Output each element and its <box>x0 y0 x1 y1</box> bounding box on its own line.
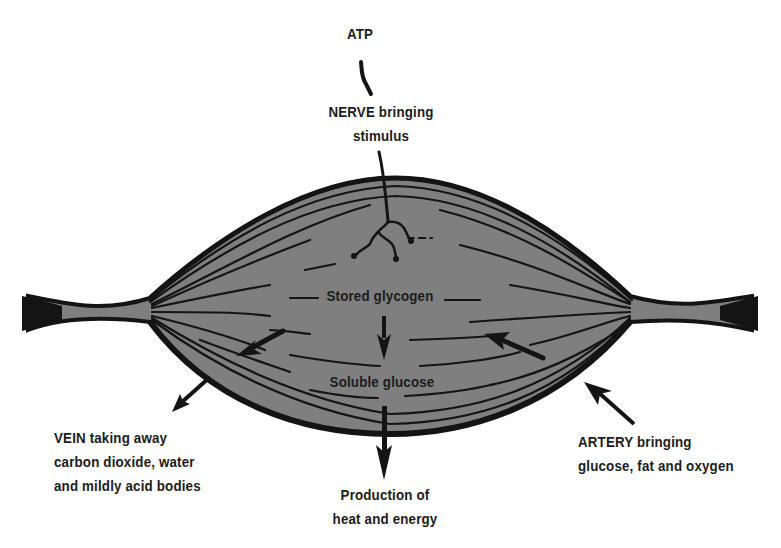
soluble-glucose-text: Soluble glucose <box>313 370 451 394</box>
production-label: Production of heat and energy <box>321 483 450 531</box>
vein-label: VEIN taking away carbon dioxide, water a… <box>54 426 201 498</box>
arrow-vein-outflow <box>172 377 210 412</box>
nerve-label: NERVE bringing stimulus <box>308 100 454 148</box>
production-line2: heat and energy <box>321 507 450 531</box>
artery-line2: glucose, fat and oxygen <box>578 454 734 478</box>
stored-glycogen-label: Stored glycogen <box>311 284 449 308</box>
nerve-line1: NERVE bringing <box>308 100 454 124</box>
vein-line2: carbon dioxide, water <box>54 450 201 474</box>
stored-glycogen-text: Stored glycogen <box>311 284 449 308</box>
artery-label: ARTERY bringing glucose, fat and oxygen <box>578 430 734 478</box>
soluble-glucose-label: Soluble glucose <box>313 370 451 394</box>
vein-line1: VEIN taking away <box>54 426 201 450</box>
nerve-line2: stimulus <box>308 124 454 148</box>
vein-line3: and mildly acid bodies <box>54 474 201 498</box>
atp-text: ATP <box>334 22 386 46</box>
production-line1: Production of <box>321 483 450 507</box>
atp-label: ATP <box>334 22 386 46</box>
artery-line1: ARTERY bringing <box>578 430 734 454</box>
atp-connector <box>361 62 371 94</box>
arrow-artery-inflow <box>584 382 634 424</box>
